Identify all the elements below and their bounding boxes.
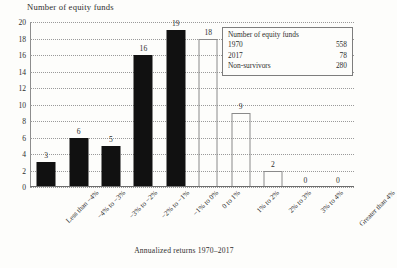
bar [69, 138, 88, 188]
bar [134, 55, 153, 187]
bar-slot: 19 [160, 22, 192, 187]
bar [199, 39, 218, 188]
x-axis-category-label: 1% to 2% [255, 189, 281, 215]
y-axis-tick-label: 8 [22, 117, 26, 126]
inset-table-title: Number of equity funds [228, 30, 347, 39]
inset-row-value: 558 [336, 40, 347, 51]
bar-value-label: 16 [140, 44, 148, 53]
y-axis-tick-label: 2 [22, 167, 26, 176]
inset-row-value: 280 [336, 61, 347, 72]
inset-table-row: 201778 [228, 51, 347, 62]
bar-slot: 5 [95, 22, 127, 187]
bar-value-label: 0 [303, 176, 307, 185]
bar-value-label: 2 [271, 160, 275, 169]
x-axis-category-label: Greater than 4% [358, 189, 397, 228]
y-axis-tick-label: 12 [18, 84, 26, 93]
bar-value-label: 6 [77, 127, 81, 136]
x-axis-title: Annualized returns 1970–2017 [0, 246, 368, 255]
bar-value-label: 3 [44, 151, 48, 160]
y-axis-tick-label: 14 [18, 68, 26, 77]
bar-value-label: 19 [172, 19, 180, 28]
x-axis-category-labels: Less than −4%−4% to −3%−3% to −2%−2% to … [30, 189, 354, 245]
x-axis-category-label: 3% to 4% [320, 189, 346, 215]
x-axis-category-label: −1% to 0% [191, 189, 220, 218]
inset-row-label: 2017 [228, 51, 249, 62]
inset-table-row: Non-survivors280 [228, 61, 347, 72]
y-axis-tick-label: 20 [18, 18, 26, 27]
y-axis-tick-label: 4 [22, 150, 26, 159]
bar-value-label: 9 [239, 102, 243, 111]
x-axis-category-label: −2% to −1% [160, 189, 191, 220]
bar-value-label: 5 [109, 135, 113, 144]
bar-value-label: 18 [204, 28, 212, 37]
bar [166, 30, 185, 187]
bar [263, 171, 282, 188]
bar-slot: 18 [192, 22, 224, 187]
bar-slot: 16 [127, 22, 159, 187]
inset-table-row: 1970558 [228, 40, 347, 51]
bar-value-label: 0 [336, 176, 340, 185]
bar [231, 113, 250, 187]
x-axis-category-label: −3% to −2% [128, 189, 159, 220]
y-axis-tick-label: 18 [18, 35, 26, 44]
bar [101, 146, 120, 187]
y-axis-tick-label: 0 [22, 183, 26, 192]
inset-summary-table: Number of equity funds 1970558201778Non-… [222, 27, 353, 76]
inset-row-value: 78 [340, 51, 347, 62]
bar [37, 162, 56, 187]
y-axis-tick-label: 6 [22, 134, 26, 143]
x-axis-category-label: 0 to 1% [221, 189, 242, 210]
y-axis-title: Number of equity funds [27, 2, 114, 12]
x-axis-category-label: Less than −4% [65, 189, 101, 225]
y-axis-tick-label: 10 [18, 101, 26, 110]
inset-row-label: 1970 [228, 40, 249, 51]
gridline: 0 [30, 187, 354, 188]
x-axis-line [30, 186, 354, 187]
bar-slot: 6 [62, 22, 94, 187]
bar-slot: 3 [30, 22, 62, 187]
x-axis-category-label: 2% to 3% [287, 189, 313, 215]
inset-row-label: Non-survivors [228, 61, 277, 72]
y-axis-tick-label: 16 [18, 51, 26, 60]
